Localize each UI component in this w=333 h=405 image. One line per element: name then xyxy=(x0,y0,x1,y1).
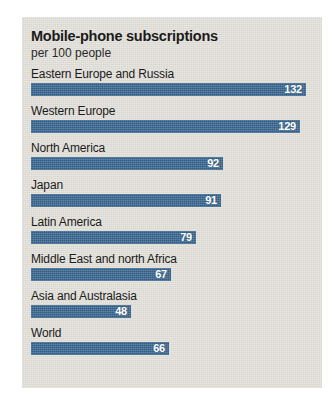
bar: 91 xyxy=(31,194,221,207)
bar: 92 xyxy=(31,157,223,170)
chart-subtitle: per 100 people xyxy=(31,46,322,61)
bar-row-label: Eastern Europe and Russia xyxy=(31,67,322,83)
bar-value-label: 67 xyxy=(155,268,171,281)
bar-row: Western Europe 129 xyxy=(31,104,322,141)
bar-rows: Eastern Europe and Russia 132 Western Eu… xyxy=(31,67,322,363)
bar: 48 xyxy=(31,305,131,318)
bar-row-label: Middle East and north Africa xyxy=(31,252,322,268)
bar-row: Middle East and north Africa 67 xyxy=(31,252,322,289)
bar-row: Asia and Australasia 48 xyxy=(31,289,322,326)
bar: 79 xyxy=(31,231,196,244)
bar: 67 xyxy=(31,268,171,281)
bar-value-label: 48 xyxy=(115,305,131,318)
bar-row-label: North America xyxy=(31,141,322,157)
bar-row-label: Asia and Australasia xyxy=(31,289,322,305)
bar-value-label: 79 xyxy=(180,231,196,244)
bar-row-label: Latin America xyxy=(31,215,322,231)
bar-row: Eastern Europe and Russia 132 xyxy=(31,67,322,104)
bar-value-label: 92 xyxy=(207,157,223,170)
chart-panel: Mobile-phone subscriptions per 100 peopl… xyxy=(22,17,322,388)
chart-title: Mobile-phone subscriptions xyxy=(31,28,322,45)
bar-row: Japan 91 xyxy=(31,178,322,215)
bar: 132 xyxy=(31,83,306,96)
bar-value-label: 129 xyxy=(278,120,300,133)
bar-row-label: Western Europe xyxy=(31,104,322,120)
bar: 66 xyxy=(31,342,169,355)
bar-row: North America 92 xyxy=(31,141,322,178)
bar-row-label: World xyxy=(31,326,322,342)
bar-value-label: 132 xyxy=(284,83,306,96)
bar-row-label: Japan xyxy=(31,178,322,194)
bar-row: World 66 xyxy=(31,326,322,363)
bar-value-label: 91 xyxy=(205,194,221,207)
bar: 129 xyxy=(31,120,300,133)
bar-value-label: 66 xyxy=(153,342,169,355)
bar-row: Latin America 79 xyxy=(31,215,322,252)
